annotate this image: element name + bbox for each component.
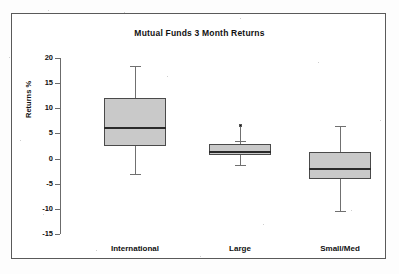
outlier-stem	[240, 126, 241, 145]
y-tick-label: -15	[42, 230, 53, 238]
y-tick-label: 20	[45, 54, 53, 62]
y-tick-label: 5	[49, 130, 53, 138]
box-iqr	[104, 98, 166, 146]
page-speck	[318, 62, 319, 63]
y-axis-line	[60, 58, 61, 234]
x-category-label: Small/Med	[320, 244, 360, 253]
page-speck	[263, 224, 264, 225]
x-category-label: International	[111, 244, 159, 253]
whisker-upper	[340, 126, 341, 152]
y-tick-mark	[55, 234, 60, 235]
page-speck	[167, 76, 168, 77]
whisker-cap-upper	[335, 126, 346, 127]
median-line	[309, 168, 371, 170]
chart-frame: Mutual Funds 3 Month Returns Returns % 2…	[11, 13, 386, 259]
page-speck	[48, 10, 49, 11]
y-tick-mark	[55, 184, 60, 185]
page-speck	[351, 210, 352, 211]
whisker-cap-upper	[130, 66, 141, 67]
whisker-lower	[135, 146, 136, 174]
page-speck	[96, 250, 97, 251]
page-speck	[20, 140, 21, 141]
box-plot-large	[209, 58, 271, 234]
y-tick-mark	[55, 83, 60, 84]
page-speck	[124, 12, 125, 13]
y-tick-label: -10	[42, 205, 53, 213]
figure-canvas: Mutual Funds 3 Month Returns Returns % 2…	[0, 0, 399, 274]
outlier-point	[239, 124, 242, 127]
plot-area: Returns % 20151050-5-10-15 International…	[60, 58, 380, 240]
y-tick-mark	[55, 108, 60, 109]
box-plot-international	[104, 58, 166, 234]
y-tick-mark	[55, 209, 60, 210]
page-speck	[240, 18, 241, 19]
y-tick-mark	[55, 159, 60, 160]
page-speck	[380, 120, 381, 121]
box-iqr	[309, 152, 371, 179]
y-tick-mark	[55, 133, 60, 134]
y-tick-mark	[55, 58, 60, 59]
y-tick-label: 0	[49, 155, 53, 163]
y-axis-label: Returns %	[24, 81, 33, 118]
whisker-cap-lower	[130, 174, 141, 175]
y-tick-label: 10	[45, 105, 53, 113]
y-tick-label: -5	[46, 180, 53, 188]
whisker-cap-lower	[335, 211, 346, 212]
y-tick-label: 15	[45, 79, 53, 87]
page-speck	[200, 256, 201, 257]
whisker-upper	[135, 66, 136, 99]
chart-title: Mutual Funds 3 Month Returns	[12, 28, 387, 38]
x-category-label: Large	[229, 244, 251, 253]
box-plot-small-med	[309, 58, 371, 234]
whisker-cap-lower	[235, 165, 246, 166]
median-line	[209, 151, 271, 153]
page-speck	[9, 57, 10, 58]
page-speck	[43, 214, 44, 215]
whisker-lower	[240, 155, 241, 165]
median-line	[104, 127, 166, 129]
whisker-lower	[340, 179, 341, 212]
